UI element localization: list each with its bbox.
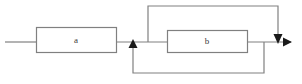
output-arrowhead-icon (283, 38, 292, 47)
diagram-canvas: a b (0, 0, 302, 84)
feedback-arrowhead-icon (129, 39, 138, 48)
block-b-label: b (205, 36, 210, 46)
block-diagram: a b (0, 0, 302, 84)
block-a-label: a (74, 35, 78, 45)
